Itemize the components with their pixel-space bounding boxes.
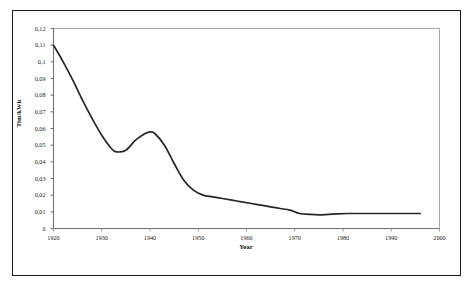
y-tick-label: 0,01 — [16, 208, 46, 215]
x-tick-label: 1940 — [135, 234, 165, 241]
y-tick-label: 0,09 — [16, 75, 46, 82]
x-tick-label: 1930 — [87, 234, 117, 241]
x-axis-title: Year — [196, 243, 296, 250]
y-tick-label: 0,11 — [16, 41, 46, 48]
y-tick-label: 0 — [16, 225, 46, 232]
y-tick-label: 0,02 — [16, 191, 46, 198]
y-tick-label: 0,03 — [16, 175, 46, 182]
x-tick-label: 1970 — [280, 234, 310, 241]
data-series-line — [54, 45, 421, 215]
y-tick-label: 0,1 — [16, 58, 46, 65]
x-tick-label: 1990 — [376, 234, 406, 241]
x-tick-label: 2000 — [425, 234, 455, 241]
y-tick-label: 0,12 — [16, 25, 46, 32]
x-tick-label: 1980 — [328, 234, 358, 241]
plot-frame — [54, 29, 440, 229]
y-tick-label: 0,04 — [16, 158, 46, 165]
x-tick-label: 1960 — [232, 234, 262, 241]
x-tick-label: 1920 — [39, 234, 69, 241]
chart-figure: 00,010,020,030,040,050,060,070,080,090,1… — [0, 0, 475, 286]
y-axis-title: Tim/kWh — [15, 84, 22, 144]
x-tick-label: 1950 — [183, 234, 213, 241]
